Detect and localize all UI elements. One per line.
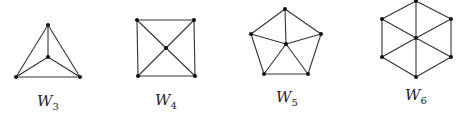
rim-vertex (46, 23, 50, 27)
rim-vertex (249, 32, 253, 36)
spoke-edge (48, 57, 80, 77)
rim-vertex (192, 18, 196, 22)
spoke-edge (138, 48, 166, 76)
spoke-edge (264, 44, 286, 74)
spoke-edge (137, 20, 166, 48)
rim-vertex (136, 74, 140, 78)
rim-edge (308, 34, 321, 74)
spoke-edge (416, 19, 451, 38)
rim-vertex (283, 7, 287, 11)
rim-vertex (380, 17, 384, 21)
spoke-edge (286, 44, 308, 74)
rim-vertex (135, 18, 139, 22)
rim-edge (251, 34, 264, 74)
wheel-graphs-canvas (0, 0, 459, 115)
hub-vertex (46, 55, 50, 59)
hub-vertex (414, 36, 418, 40)
rim-edge (416, 1, 451, 19)
rim-vertex (449, 17, 453, 21)
rim-edge (382, 1, 416, 19)
label-w5: W5 (276, 88, 298, 108)
rim-vertex (319, 32, 323, 36)
wheel-graph-w6 (380, 0, 453, 79)
rim-edge (251, 9, 285, 34)
rim-vertex (14, 75, 18, 79)
hub-vertex (284, 42, 288, 46)
spoke-edge (251, 34, 286, 44)
rim-edge (382, 57, 416, 77)
spoke-edge (16, 57, 48, 77)
rim-vertex (449, 55, 453, 59)
rim-edge (194, 20, 195, 76)
spoke-edge (416, 38, 451, 57)
rim-vertex (414, 0, 418, 3)
label-w6: W6 (405, 86, 427, 106)
wheel-graph-w4 (135, 18, 197, 78)
hub-vertex (164, 46, 168, 50)
spoke-edge (382, 19, 416, 38)
rim-vertex (306, 72, 310, 76)
rim-edge (48, 25, 80, 77)
spoke-edge (166, 20, 194, 48)
rim-edge (416, 57, 451, 77)
rim-vertex (78, 75, 82, 79)
rim-edge (137, 20, 138, 76)
rim-vertex (414, 75, 418, 79)
rim-vertex (380, 55, 384, 59)
spoke-edge (382, 38, 416, 57)
wheel-graph-w3 (14, 23, 82, 79)
spoke-edge (166, 48, 195, 76)
rim-vertex (262, 72, 266, 76)
wheel-graph-w5 (249, 7, 323, 76)
spoke-edge (286, 34, 321, 44)
label-w4: W4 (155, 91, 177, 111)
rim-edge (16, 25, 48, 77)
label-w3: W3 (37, 92, 59, 112)
rim-vertex (193, 74, 197, 78)
rim-edge (285, 9, 321, 34)
spoke-edge (285, 9, 286, 44)
